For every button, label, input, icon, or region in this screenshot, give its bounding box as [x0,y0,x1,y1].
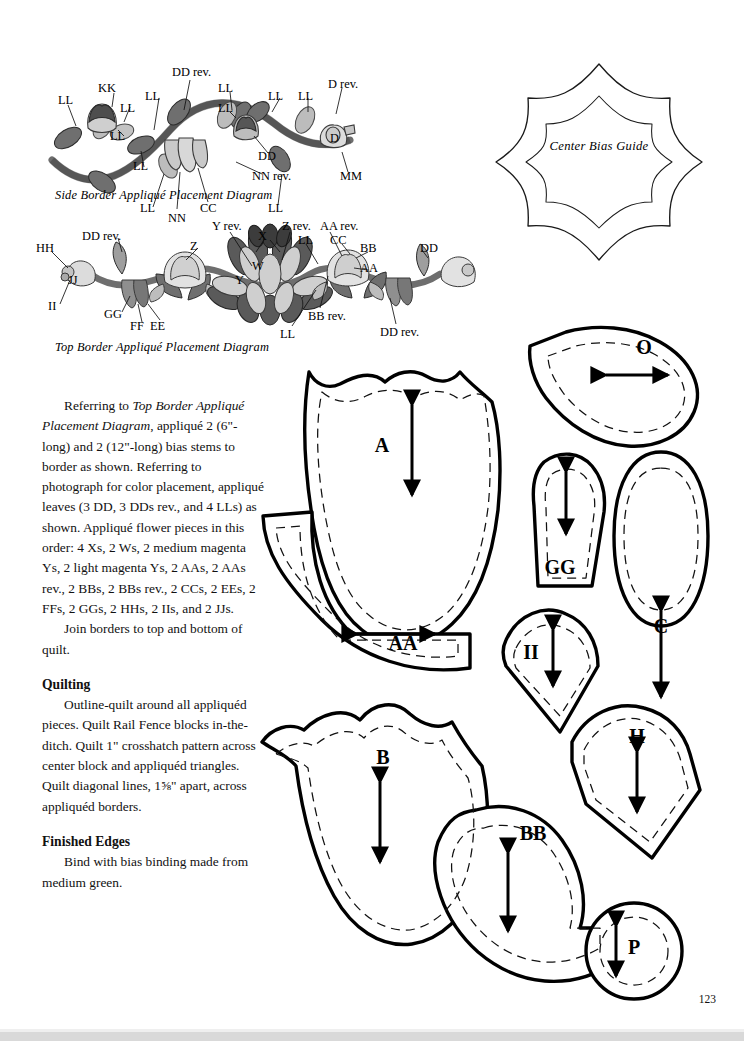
top-border-diagram-caption: Top Border Appliqué Placement Diagram [55,340,269,355]
top-border-piece-label: Z [190,239,198,253]
top-border-applique-placement-diagram: HHJJIIDD rev.GGFFEEZY rev.XWYZ rev.LLAA … [30,212,490,332]
piece-label-GG: GG [544,556,576,578]
piece-label-A: A [375,434,390,456]
top-border-piece-label: FF [130,319,144,333]
top-border-piece-label: LL [280,327,295,341]
top-border-piece-label: AA rev. [320,219,358,233]
piece-outline-B [262,705,488,945]
paragraph-quilting: Outline-quilt around all appliquéd piece… [42,695,264,817]
top-border-piece-label: BB [360,241,377,255]
piece-seam-B [276,726,474,930]
piece-label-O: O [636,336,652,358]
top-border-piece-label: DD rev. [380,325,419,339]
piece-label-AA: AA [389,632,418,654]
side-border-piece-label: DD rev. [172,65,211,79]
top-border-piece-label: HH [36,241,54,255]
side-border-piece-label: LL [120,101,135,115]
side-border-diagram-caption: Side Border Appliqué Placement Diagram [55,188,273,203]
piece-outline-C [614,452,708,626]
piece-outline-P [586,903,682,999]
top-border-piece-label: JJ [68,273,78,287]
piece-label-II: II [523,641,539,663]
piece-seam-AA [276,526,458,657]
top-border-piece-label: CC [330,233,347,247]
piece-seam-O [548,343,685,433]
p1-rest: , appliqué 2 (6"-long) and 2 (12"-long) … [42,418,264,616]
top-border-piece-label: X [258,229,267,243]
piece-seam-A [318,390,490,630]
piece-seam-C [624,468,698,610]
heading-quilting: Quilting [42,675,264,695]
top-border-piece-label: EE [150,319,165,333]
top-border-piece-label: GG [104,307,122,321]
piece-seam-BB [452,825,600,962]
top-border-piece-label: BB rev. [308,309,346,323]
side-border-piece-label: DD [258,149,276,163]
side-border-piece-label: LL [58,93,73,107]
piece-label-C: C [654,615,668,637]
top-border-piece-label: LL [298,233,313,247]
paragraph-join-borders: Join borders to top and bottom of quilt. [42,619,264,660]
side-border-piece-label: D rev. [328,77,358,91]
side-border-piece-label: LL [218,101,233,115]
piece-outline-H [572,706,700,858]
top-border-piece-label: Y rev. [212,219,242,233]
piece-seam-P [600,917,668,985]
page-number: 123 [699,993,716,1005]
piece-label-H: H [629,725,645,747]
top-border-piece-label: Z rev. [282,219,311,233]
piece-outline-II [503,610,598,732]
top-border-piece-label: DD rev. [82,229,121,243]
piece-outline-A [305,372,500,645]
center-bias-guide-template [474,54,724,294]
piece-label-P: P [628,936,640,958]
side-border-piece-label: LL [110,129,125,143]
top-border-piece-label: AA [360,261,378,275]
p1-lead: Referring to [64,398,132,413]
center-bias-guide-label: Center Bias Guide [474,139,724,154]
side-border-piece-label: LL [218,81,233,95]
piece-label-BB: BB [520,822,547,844]
heading-finished-edges: Finished Edges [42,832,264,852]
piece-outline-GG [533,454,604,586]
side-border-piece-label: D [330,131,339,145]
piece-seam-II [514,625,590,716]
side-border-piece-label: NN rev. [252,169,291,183]
side-border-piece-label: LL [145,89,160,103]
piece-seam-GG [545,469,594,578]
piece-label-B: B [376,746,389,768]
piece-seam-H [584,718,688,842]
side-border-piece-label: MM [340,169,362,183]
side-border-piece-label: LL [268,89,283,103]
paragraph-top-border: Referring to Top Border Appliqué Placeme… [42,396,264,619]
side-border-piece-label: LL [133,159,148,173]
side-border-piece-label: LL [298,89,313,103]
piece-outline-BB [435,807,616,982]
side-border-piece-label: KK [98,81,116,95]
piece-outline-O [530,327,698,446]
top-border-piece-label: DD [420,241,438,255]
top-border-piece-label: Y [235,273,244,287]
paragraph-finished-edges: Bind with bias binding made from medium … [42,852,264,893]
top-border-piece-label: II [48,299,56,313]
side-border-applique-placement-diagram: LLKKLLLLLLLLDD rev.LLNNCCLLLLDDNN rev.LL… [40,52,400,182]
instructions-column: Referring to Top Border Appliqué Placeme… [42,396,264,893]
top-border-piece-label: W [252,259,264,273]
quilt-pattern-page: LLKKLLLLLLLLDD rev.LLNNCCLLLLDDNN rev.LL… [0,0,744,1041]
piece-outline-AA [263,512,470,670]
page-edge-shadow [0,1032,744,1041]
